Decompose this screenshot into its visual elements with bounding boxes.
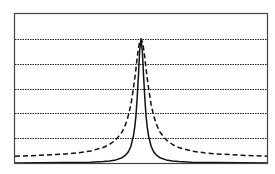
lorentzian-chart bbox=[0, 0, 275, 174]
